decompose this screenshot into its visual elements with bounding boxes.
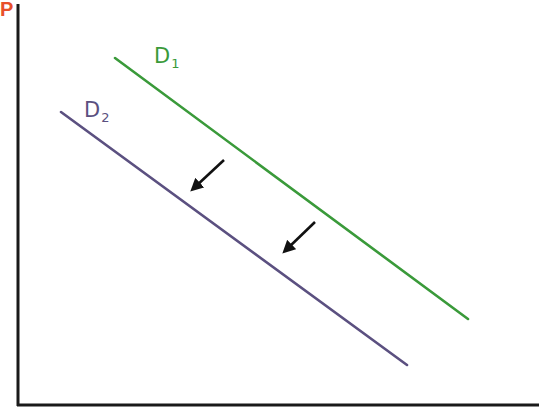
- curve-label-d1-main: D: [154, 44, 170, 68]
- curve-label-d1-sub: 1: [171, 56, 179, 71]
- curve-label-d2: D2: [84, 99, 109, 129]
- y-axis-label-text: P: [0, 0, 13, 20]
- curve-label-d1: D1: [154, 45, 179, 75]
- shift-arrow-icon: [287, 222, 315, 249]
- y-axis-label: P: [0, 0, 13, 19]
- curve-label-d2-main: D: [84, 98, 100, 122]
- diagram-canvas: [0, 0, 539, 416]
- curve-label-d2-sub: 2: [101, 110, 109, 125]
- demand-curve-d2: [61, 112, 407, 365]
- shift-arrow-icon: [195, 160, 224, 187]
